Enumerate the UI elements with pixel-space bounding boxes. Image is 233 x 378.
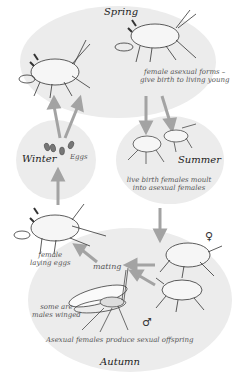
female-laying-eggs-label: female laying eggs [30, 251, 71, 267]
summer-note-line2: into asexual females [124, 184, 214, 192]
eggs-label: Eggs [70, 153, 88, 161]
winged-males-label: some are males winged [32, 303, 81, 319]
spring-note-line1: female asexual forms – [140, 68, 229, 76]
season-label-summer: Summer [178, 154, 221, 165]
female-symbol: ♀ [205, 230, 213, 243]
male-symbol: ♂ [142, 316, 152, 329]
summer-note-line1: live birth females moult [124, 176, 214, 184]
female-laying-line2: laying eggs [30, 259, 71, 267]
spring-note-line2: give birth to living young [140, 76, 229, 84]
summer-note: live birth females moult into asexual fe… [124, 176, 214, 192]
aphid-life-cycle-diagram: Spring female asexual forms – give birth… [0, 0, 233, 378]
winged-line2: males winged [32, 311, 81, 319]
female-laying-line1: female [30, 251, 71, 259]
mating-label: mating [93, 263, 121, 271]
autumn-note: Asexual females produce sexual offspring [46, 336, 194, 344]
winged-line1: some are [32, 303, 81, 311]
season-label-winter: Winter [22, 153, 56, 164]
spring-note: female asexual forms – give birth to liv… [140, 68, 229, 84]
season-label-autumn: Autumn [100, 356, 140, 367]
season-label-spring: Spring [104, 6, 138, 17]
